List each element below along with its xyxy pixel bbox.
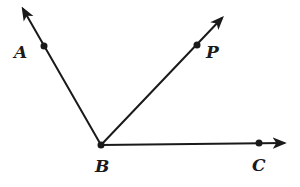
label-a: A: [12, 42, 27, 62]
label-b: B: [94, 156, 109, 176]
label-p: P: [205, 42, 220, 62]
point-p: [194, 42, 201, 49]
point-b: [98, 142, 105, 149]
angle-diagram: A P B C: [0, 0, 300, 187]
label-c: C: [252, 155, 266, 175]
ray-ba: [23, 9, 101, 145]
point-a: [41, 43, 48, 50]
point-c: [256, 140, 263, 147]
ray-bp: [101, 18, 222, 145]
